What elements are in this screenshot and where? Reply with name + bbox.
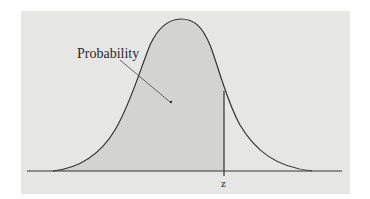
z-label: z [221, 177, 226, 189]
normal-curve-diagram: Probability z [0, 0, 370, 199]
shaded-probability-area [53, 19, 224, 171]
probability-label: Probability [77, 46, 139, 61]
annotation-pointer-dot [170, 101, 172, 103]
